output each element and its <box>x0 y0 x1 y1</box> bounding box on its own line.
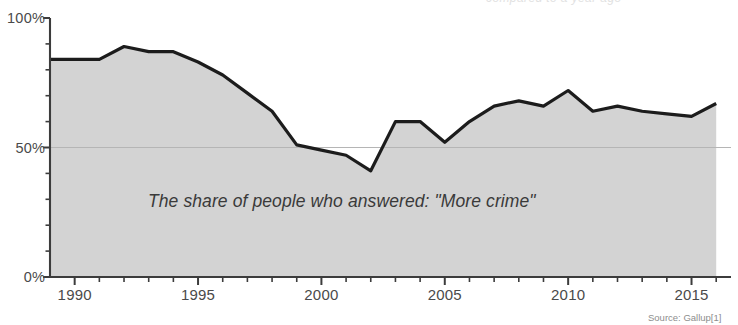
crime-perception-area-chart: compared to a year ago 0%50%100% 1990199… <box>0 0 738 325</box>
x-tick-label-2015: 2015 <box>674 287 708 302</box>
x-tick-label-1990: 1990 <box>58 287 92 302</box>
source-credit: Source: Gallup[1] <box>648 313 738 325</box>
x-tick-label-1995: 1995 <box>181 287 215 302</box>
x-tick-label-2000: 2000 <box>304 287 338 302</box>
x-tick-label-2005: 2005 <box>428 287 462 302</box>
x-tick-label-2010: 2010 <box>551 287 585 302</box>
chart-annotation-label: The share of people who answered: "More … <box>148 193 536 211</box>
x-axis-tick-labels: 199019952000200520102015 <box>0 0 738 325</box>
